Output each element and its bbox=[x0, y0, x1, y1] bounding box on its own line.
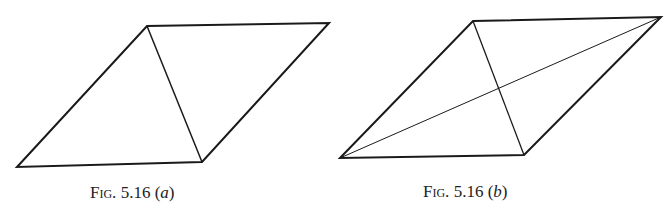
caption-number: 5.16 bbox=[121, 183, 151, 202]
caption-label: b bbox=[493, 182, 502, 201]
caption-label: a bbox=[160, 183, 169, 202]
figure-a-parallelogram bbox=[17, 23, 329, 167]
caption-figure-b: Fig. 5.16 (b) bbox=[423, 182, 507, 202]
caption-prefix: Fig. bbox=[90, 183, 116, 202]
figure-b-long-diagonal bbox=[340, 17, 661, 158]
caption-prefix: Fig. bbox=[423, 182, 449, 201]
caption-number: 5.16 bbox=[454, 182, 484, 201]
figure-b-parallelogram bbox=[340, 17, 661, 158]
caption-figure-a: Fig. 5.16 (a) bbox=[90, 183, 174, 203]
figure-a-diagonal bbox=[147, 26, 202, 162]
